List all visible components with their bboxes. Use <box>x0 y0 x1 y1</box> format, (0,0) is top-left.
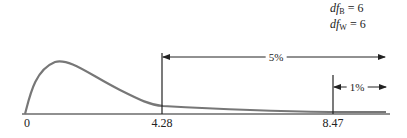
tick-4-28: 4.28 <box>152 116 173 131</box>
label-1pct: 1% <box>347 81 368 93</box>
label-5pct: 5% <box>266 51 287 63</box>
chart-svg <box>0 0 407 138</box>
tick-8-47: 8.47 <box>323 116 344 131</box>
density-curve <box>25 61 386 114</box>
tick-0: 0 <box>24 116 30 131</box>
